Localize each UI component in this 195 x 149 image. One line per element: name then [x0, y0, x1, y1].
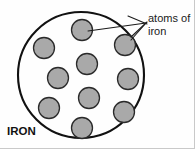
atom-upper-left — [34, 38, 55, 59]
atom-lower-left — [39, 98, 60, 119]
callout-label-line2: iron — [148, 25, 166, 37]
atom-lower-right — [114, 102, 135, 123]
atom-mid-left — [48, 68, 69, 89]
atom-mid-right — [118, 69, 139, 90]
atom-lower-center — [79, 88, 100, 109]
material-label-iron: IRON — [7, 125, 36, 137]
iron-atoms-figure: atoms of iron IRON — [0, 0, 195, 149]
callout-label-line1: atoms of — [148, 12, 191, 24]
atom-top-center — [72, 20, 93, 41]
leader-arrow-stroke-upper — [128, 16, 147, 24]
diagram-canvas: atoms of iron IRON — [0, 0, 195, 149]
atom-bottom-center — [72, 118, 93, 139]
atom-mid-center — [77, 54, 98, 75]
